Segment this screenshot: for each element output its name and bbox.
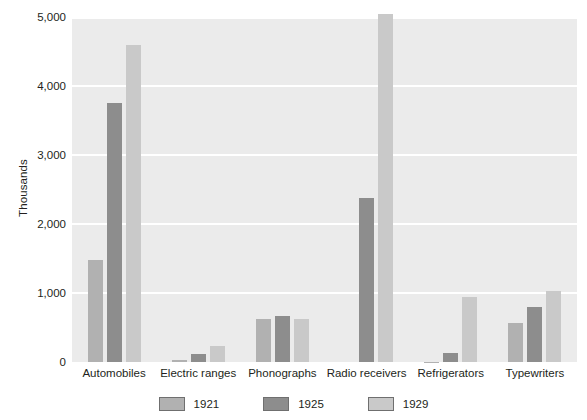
x-axis-tick-label: Typewriters: [493, 366, 577, 380]
y-axis-tick-label: 0: [2, 356, 66, 368]
x-axis-tick-label: Automobiles: [72, 366, 156, 380]
legend-label: 1929: [403, 398, 429, 410]
bar-group: [88, 17, 141, 362]
bars-layer: [72, 0, 577, 362]
bar-1925-refrigerators[interactable]: [443, 353, 458, 362]
bar-1929-refrigerators[interactable]: [462, 297, 477, 362]
bar-1925-automobiles[interactable]: [107, 103, 122, 362]
bar-1921-typewriters[interactable]: [508, 323, 523, 362]
bar-group: [424, 17, 477, 362]
y-axis-tick-label: 4,000: [2, 80, 66, 92]
bar-1921-phonographs[interactable]: [256, 319, 271, 362]
legend-swatch-icon: [263, 397, 289, 411]
legend-entry-1921[interactable]: 1921: [159, 397, 220, 411]
bar-group: [172, 17, 225, 362]
bar-1925-phonographs[interactable]: [275, 316, 290, 362]
y-axis-tick-label: 5,000: [2, 11, 66, 23]
y-axis-tick-label: 3,000: [2, 149, 66, 161]
bar-1929-typewriters[interactable]: [546, 291, 561, 362]
y-axis-tick-label: 1,000: [2, 287, 66, 299]
bar-1925-typewriters[interactable]: [527, 307, 542, 362]
y-axis-tick-labels: 5,0004,0003,0002,0001,0000: [0, 0, 66, 420]
legend-swatch-icon: [368, 397, 394, 411]
bar-group: [508, 17, 561, 362]
bar-1925-radio-receivers[interactable]: [359, 198, 374, 362]
x-axis-tick-label: Radio receivers: [325, 366, 409, 380]
legend-swatch-icon: [159, 397, 185, 411]
grouped-bar-chart: Thousands 5,0004,0003,0002,0001,0000 Aut…: [0, 0, 587, 420]
bar-1921-automobiles[interactable]: [88, 260, 103, 362]
bar-1925-electric-ranges[interactable]: [191, 354, 206, 362]
legend-entry-1925[interactable]: 1925: [263, 397, 324, 411]
legend-entry-1929[interactable]: 1929: [368, 397, 429, 411]
bar-group: [256, 17, 309, 362]
chart-legend: 192119251929: [0, 397, 587, 411]
legend-label: 1921: [194, 398, 220, 410]
bar-1921-electric-ranges[interactable]: [172, 360, 187, 362]
bar-group: [340, 17, 393, 362]
x-axis-tick-label: Refrigerators: [409, 366, 493, 380]
bar-1929-electric-ranges[interactable]: [210, 346, 225, 362]
legend-label: 1925: [298, 398, 324, 410]
x-axis-tick-label: Electric ranges: [156, 366, 240, 380]
bar-1929-automobiles[interactable]: [126, 45, 141, 362]
bar-1929-phonographs[interactable]: [294, 319, 309, 362]
y-axis-tick-label: 2,000: [2, 218, 66, 230]
x-axis-tick-label: Phonographs: [240, 366, 324, 380]
x-axis-tick-labels: AutomobilesElectric rangesPhonographsRad…: [72, 366, 577, 384]
bar-1929-radio-receivers[interactable]: [378, 14, 393, 362]
